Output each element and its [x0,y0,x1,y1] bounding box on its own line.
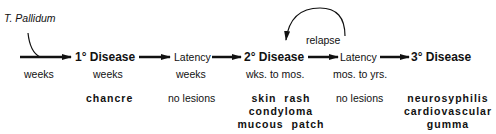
stage-latency1-lesion: no lesions [168,92,215,104]
stage-secondary-duration: wks. to mos. [246,68,304,80]
pathogen-label: T. Pallidum [4,12,56,24]
stage-secondary-label: 2° Disease [244,50,304,64]
lesion-cardiovascular: cardiovascular [400,105,496,118]
pathogen-entry-curve [28,33,40,57]
stage-primary-duration: weeks [93,68,123,80]
stage-secondary-lesions: skin rash condyloma mucous patch [236,92,326,131]
lesion-gumma: gumma [400,118,496,131]
stage-tertiary-label: 3° Disease [411,50,471,64]
lesion-skin-rash: skin rash [236,92,326,105]
lesion-mucous-patch: mucous patch [236,118,326,131]
stage-latency2-lesion: no lesions [336,92,383,104]
stage-latency1-label: Latency [174,51,211,63]
stage-primary-lesion: chancre [86,92,133,105]
stage-primary-label: 1° Disease [75,50,135,64]
stage-latency2-duration: mos. to yrs. [333,68,387,80]
lesion-condyloma: condyloma [236,105,326,118]
entry-duration: weeks [24,68,54,80]
stage-latency1-duration: weeks [176,68,206,80]
relapse-label: relapse [306,34,340,46]
stage-tertiary-lesions: neurosyphilis cardiovascular gumma [400,92,496,131]
lesion-neurosyphilis: neurosyphilis [400,92,496,105]
stage-latency2-label: Latency [340,51,377,63]
